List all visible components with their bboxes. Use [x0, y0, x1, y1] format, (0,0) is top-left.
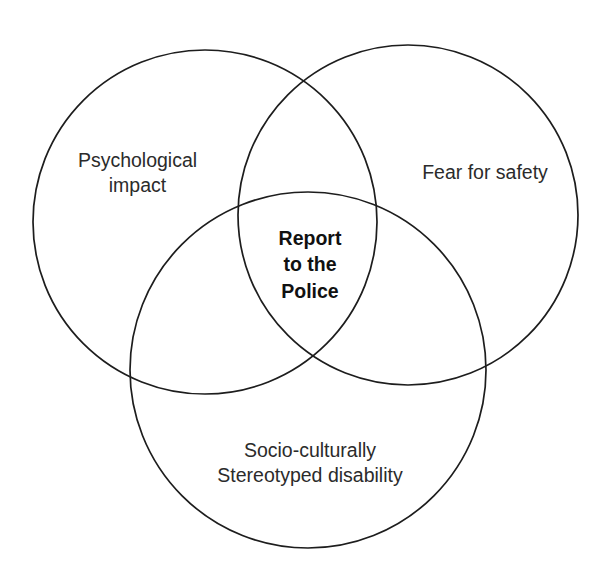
venn-diagram: Psychological impact Fear for safety Rep… [0, 0, 604, 569]
venn-label-report-to-the-police: Report to the Police [235, 225, 385, 304]
venn-label-line: Psychological [40, 148, 235, 173]
venn-circle-fear-for-safety [238, 45, 578, 385]
venn-circle-psychological-impact [33, 50, 377, 394]
venn-label-line: Stereotyped disability [160, 463, 460, 488]
venn-label-socio-culturally-stereotyped-disability: Socio-culturally Stereotyped disability [160, 438, 460, 488]
venn-label-line: Police [235, 278, 385, 304]
venn-label-fear-for-safety: Fear for safety [390, 160, 580, 185]
venn-label-line: Fear for safety [390, 160, 580, 185]
venn-label-line: to the [235, 251, 385, 277]
venn-label-psychological-impact: Psychological impact [40, 148, 235, 198]
venn-label-line: Socio-culturally [160, 438, 460, 463]
venn-label-line: Report [235, 225, 385, 251]
venn-label-line: impact [40, 173, 235, 198]
